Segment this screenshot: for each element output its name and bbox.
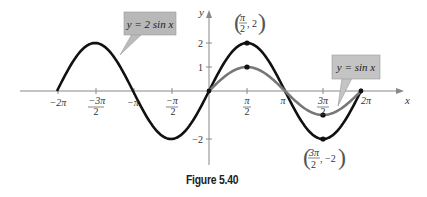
point-2pi xyxy=(359,89,364,94)
svg-text:): ) xyxy=(338,144,346,170)
svg-text:, 2: , 2 xyxy=(247,18,257,29)
svg-text:−π: −π xyxy=(166,95,179,106)
tick-m2pi: −2π xyxy=(50,97,68,108)
svg-text:3π: 3π xyxy=(308,147,320,158)
y-axis-label: y xyxy=(198,6,204,18)
svg-text:y = 2 sin x: y = 2 sin x xyxy=(126,18,174,30)
annotation-max: ( π 2 , 2 ) xyxy=(234,9,266,35)
svg-text:): ) xyxy=(258,9,266,35)
svg-text:−3π: −3π xyxy=(89,95,107,106)
svg-text:y = sin x: y = sin x xyxy=(336,61,375,73)
sine-graph: −2π −3π2 −π −π2 π2 π 3π2 2π x y 2 1 −2 (… xyxy=(0,0,427,197)
x-axis-label: x xyxy=(404,94,410,106)
svg-text:π: π xyxy=(244,95,250,106)
annotation-min: ( 3π 2 , −2 ) xyxy=(303,144,346,170)
x-axis-arrow-icon xyxy=(396,88,404,94)
y-axis-arrow-icon xyxy=(206,10,212,18)
tick-m3pi2: −3π2 xyxy=(88,95,106,117)
svg-text:π: π xyxy=(240,12,246,23)
tick-pi: π xyxy=(280,95,286,106)
point-max-sin xyxy=(244,64,249,69)
svg-text:2: 2 xyxy=(311,159,316,170)
callout-2sinx: y = 2 sin x xyxy=(120,12,176,55)
svg-text:2: 2 xyxy=(240,23,245,34)
svg-text:2: 2 xyxy=(321,106,326,117)
svg-text:3π: 3π xyxy=(317,95,329,106)
svg-text:−2: −2 xyxy=(192,134,203,145)
svg-text:1: 1 xyxy=(198,62,203,73)
svg-text:2: 2 xyxy=(245,106,250,117)
svg-text:2: 2 xyxy=(198,38,203,49)
svg-text:2: 2 xyxy=(94,106,99,117)
point-min-2sin xyxy=(320,136,325,141)
svg-text:, −2: , −2 xyxy=(320,153,336,164)
svg-text:2: 2 xyxy=(171,106,176,117)
tick-mpi2: −π2 xyxy=(166,95,179,117)
figure-caption: Figure 5.40 xyxy=(186,172,238,187)
point-origin xyxy=(207,89,212,94)
tick-mpi: −π xyxy=(127,97,140,108)
tick-2pi: 2π xyxy=(361,95,372,106)
x-tick-labels: −2π −3π2 −π −π2 π2 π 3π2 2π xyxy=(50,95,372,117)
tick-pi2: π2 xyxy=(243,95,251,117)
point-max-2sin xyxy=(244,40,249,45)
